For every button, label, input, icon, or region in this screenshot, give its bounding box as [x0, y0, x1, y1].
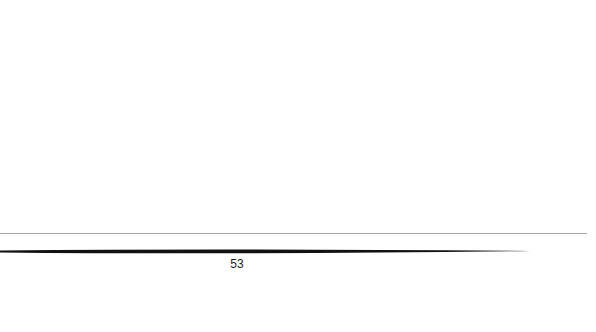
page-number: 53 [229, 257, 245, 271]
document-page: 53 [0, 0, 596, 332]
header-divider-rule [0, 233, 587, 234]
tapered-footer-rule [0, 248, 531, 255]
